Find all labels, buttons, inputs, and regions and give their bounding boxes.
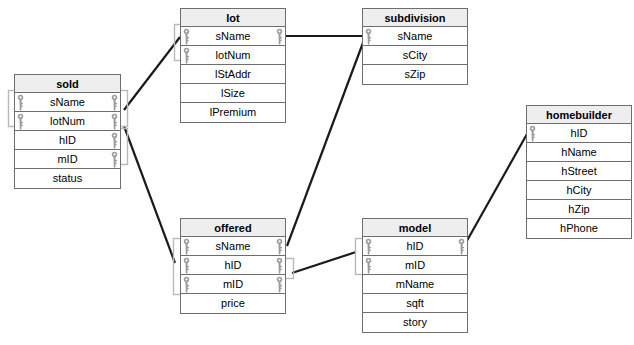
primary-key-icon xyxy=(182,47,191,64)
attribute-row-homebuilder-hID[interactable]: hID xyxy=(527,124,631,143)
primary-key-icon xyxy=(457,238,466,255)
primary-key-icon xyxy=(275,257,284,274)
entity-title-lot: lot xyxy=(181,9,285,27)
primary-key-icon xyxy=(275,28,284,45)
primary-key-icon xyxy=(364,28,373,45)
primary-key-icon xyxy=(110,151,119,168)
attribute-list: hIDhNamehStreethCityhZiphPhone xyxy=(527,124,631,238)
er-diagram-canvas: soldsNamelotNumhIDmIDstatuslotsNamelotNu… xyxy=(0,0,634,345)
attribute-list: hIDmIDmNamesqftstory xyxy=(363,237,467,332)
attribute-row-lot-sName[interactable]: sName xyxy=(181,27,285,46)
entity-table-offered[interactable]: offeredsNamehIDmIDprice xyxy=(180,218,286,314)
attribute-row-homebuilder-hName[interactable]: hName xyxy=(527,143,631,162)
primary-key-icon xyxy=(182,257,191,274)
primary-key-icon xyxy=(275,276,284,293)
attribute-row-offered-sName[interactable]: sName xyxy=(181,237,285,256)
attribute-label: mID xyxy=(405,259,425,271)
attribute-label: sZip xyxy=(405,68,426,80)
entity-table-subdivision[interactable]: subdivisionsNamesCitysZip xyxy=(362,8,468,85)
attribute-label: sName xyxy=(50,96,85,108)
attribute-row-sold-lotNum[interactable]: lotNum xyxy=(15,112,120,131)
attribute-row-model-mID[interactable]: mID xyxy=(363,256,467,275)
attribute-label: hID xyxy=(570,127,587,139)
relationship-line-model-homebuilder[interactable] xyxy=(464,134,527,246)
attribute-row-offered-hID[interactable]: hID xyxy=(181,256,285,275)
attribute-label: lotNum xyxy=(50,115,85,127)
attribute-label: lSize xyxy=(221,87,245,99)
attribute-label: lStAddr xyxy=(215,68,251,80)
attribute-row-sold-mID[interactable]: mID xyxy=(15,150,120,169)
primary-key-icon xyxy=(182,28,191,45)
attribute-label: sCity xyxy=(403,49,427,61)
attribute-label: story xyxy=(403,316,427,328)
entity-table-homebuilder[interactable]: homebuilderhIDhNamehStreethCityhZiphPhon… xyxy=(526,105,632,239)
attribute-label: hStreet xyxy=(561,165,596,177)
attribute-list: sNamehIDmIDprice xyxy=(181,237,285,313)
attribute-row-model-mName[interactable]: mName xyxy=(363,275,467,294)
attribute-row-lot-lStAddr[interactable]: lStAddr xyxy=(181,65,285,84)
attribute-row-lot-lotNum[interactable]: lotNum xyxy=(181,46,285,65)
attribute-label: hName xyxy=(561,146,596,158)
entity-title-sold: sold xyxy=(15,75,120,93)
attribute-label: hCity xyxy=(566,184,591,196)
attribute-row-homebuilder-hStreet[interactable]: hStreet xyxy=(527,162,631,181)
primary-key-icon xyxy=(16,113,25,130)
attribute-row-homebuilder-hCity[interactable]: hCity xyxy=(527,181,631,200)
attribute-label: hZip xyxy=(568,203,589,215)
attribute-row-lot-lSize[interactable]: lSize xyxy=(181,84,285,103)
attribute-label: status xyxy=(53,172,82,184)
attribute-row-subdivision-sName[interactable]: sName xyxy=(363,27,467,46)
relationship-line-subdivision-offered[interactable] xyxy=(287,40,364,246)
entity-title-subdivision: subdivision xyxy=(363,9,467,27)
attribute-label: hPhone xyxy=(560,222,598,234)
attribute-label: sName xyxy=(216,240,251,252)
primary-key-icon xyxy=(182,238,191,255)
attribute-label: mID xyxy=(57,153,77,165)
attribute-label: mName xyxy=(396,278,435,290)
attribute-label: lPremium xyxy=(210,106,256,118)
attribute-label: mID xyxy=(223,278,243,290)
attribute-row-model-hID[interactable]: hID xyxy=(363,237,467,256)
entity-title-model: model xyxy=(363,219,467,237)
attribute-label: sName xyxy=(398,30,433,42)
attribute-list: sNamesCitysZip xyxy=(363,27,467,84)
attribute-list: sNamelotNumlStAddrlSizelPremium xyxy=(181,27,285,122)
attribute-row-subdivision-sZip[interactable]: sZip xyxy=(363,65,467,84)
attribute-row-sold-hID[interactable]: hID xyxy=(15,131,120,150)
attribute-row-sold-status[interactable]: status xyxy=(15,169,120,188)
primary-key-icon xyxy=(110,113,119,130)
primary-key-icon xyxy=(275,238,284,255)
entity-title-offered: offered xyxy=(181,219,285,237)
entity-table-lot[interactable]: lotsNamelotNumlStAddrlSizelPremium xyxy=(180,8,286,123)
relationship-line-offered-model[interactable] xyxy=(292,252,356,273)
attribute-row-lot-lPremium[interactable]: lPremium xyxy=(181,103,285,122)
attribute-label: hID xyxy=(224,259,241,271)
primary-key-icon xyxy=(364,257,373,274)
primary-key-icon xyxy=(528,125,537,142)
attribute-row-homebuilder-hZip[interactable]: hZip xyxy=(527,200,631,219)
entity-title-homebuilder: homebuilder xyxy=(527,106,631,124)
attribute-row-model-sqft[interactable]: sqft xyxy=(363,294,467,313)
attribute-label: lotNum xyxy=(216,49,251,61)
attribute-label: price xyxy=(221,297,245,309)
attribute-row-offered-mID[interactable]: mID xyxy=(181,275,285,294)
attribute-row-sold-sName[interactable]: sName xyxy=(15,93,120,112)
attribute-label: sqft xyxy=(406,297,424,309)
primary-key-icon xyxy=(364,238,373,255)
attribute-row-subdivision-sCity[interactable]: sCity xyxy=(363,46,467,65)
attribute-label: sName xyxy=(216,30,251,42)
primary-key-icon xyxy=(110,94,119,111)
attribute-row-homebuilder-hPhone[interactable]: hPhone xyxy=(527,219,631,238)
entity-table-sold[interactable]: soldsNamelotNumhIDmIDstatus xyxy=(14,74,121,189)
primary-key-icon xyxy=(110,132,119,149)
relationship-line-sold-offered[interactable] xyxy=(124,126,175,263)
attribute-label: hID xyxy=(59,134,76,146)
attribute-row-model-story[interactable]: story xyxy=(363,313,467,332)
primary-key-icon xyxy=(16,94,25,111)
attribute-label: hID xyxy=(406,240,423,252)
primary-key-icon xyxy=(182,276,191,293)
entity-table-model[interactable]: modelhIDmIDmNamesqftstory xyxy=(362,218,468,333)
attribute-list: sNamelotNumhIDmIDstatus xyxy=(15,93,120,188)
attribute-row-offered-price[interactable]: price xyxy=(181,294,285,313)
relationship-line-sold-lot[interactable] xyxy=(124,37,180,110)
